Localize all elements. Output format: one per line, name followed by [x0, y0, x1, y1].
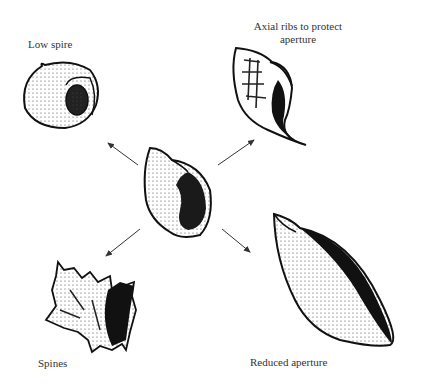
diagram-canvas	[0, 0, 421, 388]
arrow-down-left	[106, 229, 140, 256]
label-axial-ribs: Axial ribs to protect aperture	[228, 20, 368, 46]
axial-ribs-shell	[233, 48, 306, 145]
label-low-spire: Low spire	[28, 38, 72, 51]
label-axial-ribs-line2: aperture	[228, 33, 368, 46]
label-axial-ribs-line1: Axial ribs to protect	[228, 20, 368, 33]
label-spines: Spines	[38, 357, 67, 370]
low-spire-shell	[24, 62, 98, 128]
arrow-down-right	[222, 229, 250, 252]
spines-shell	[46, 262, 136, 352]
arrow-up-right	[218, 140, 254, 165]
reduced-aperture-shell	[274, 214, 393, 346]
arrow-up-left	[108, 143, 138, 165]
label-reduced-aperture: Reduced aperture	[250, 356, 327, 369]
ancestral-shell	[145, 148, 211, 237]
